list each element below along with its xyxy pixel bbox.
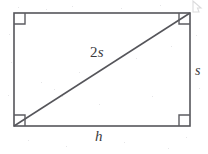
right-angle-mark-top-left: [14, 13, 25, 24]
diagonal-hypotenuse-line: [14, 13, 190, 126]
geometry-figure-canvas: 2s s h: [0, 0, 208, 154]
rectangle-with-diagonal-drawing: [0, 0, 208, 154]
label-horizontal-side-h: h: [95, 129, 103, 144]
label-diagonal-variable: s: [98, 44, 104, 60]
label-vertical-side-s: s: [195, 64, 201, 78]
label-diagonal-coefficient: 2: [90, 44, 98, 60]
right-angle-mark-bottom-right: [179, 115, 190, 126]
label-diagonal-2s: 2s: [90, 45, 104, 60]
